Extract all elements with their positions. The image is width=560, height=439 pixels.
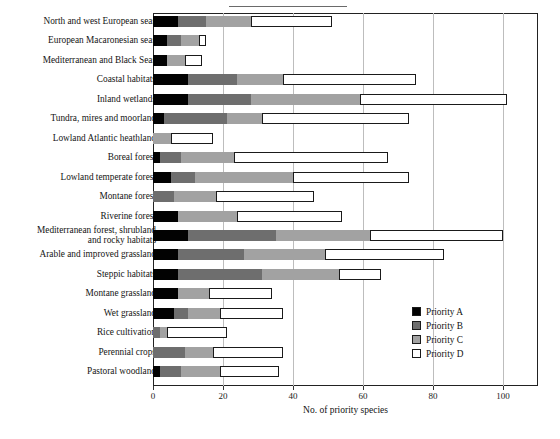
- bar-segment-priority-a: [153, 308, 174, 319]
- stacked-bar[interactable]: [153, 191, 314, 202]
- bar-segment-priority-c: [237, 74, 283, 85]
- bar-segment-priority-b: [167, 35, 181, 46]
- category-label: Mediterranean forest, shrublandand rocky…: [0, 225, 156, 246]
- legend-item-priority-b[interactable]: Priority B: [412, 319, 522, 332]
- stacked-bar[interactable]: [153, 211, 342, 222]
- bar-segment-priority-b: [153, 347, 185, 358]
- stacked-bar[interactable]: [153, 366, 279, 377]
- stacked-bar[interactable]: [153, 288, 272, 299]
- category-label: Steppic habitats: [0, 269, 156, 280]
- bar-segment-priority-c: [153, 133, 171, 144]
- stacked-bar[interactable]: [153, 347, 283, 358]
- stacked-bar[interactable]: [153, 35, 206, 46]
- x-axis-tick-label: 100: [483, 391, 523, 401]
- bar-segment-priority-a: [153, 152, 160, 163]
- bar-segment-priority-d: [234, 152, 388, 163]
- stacked-bar[interactable]: [153, 94, 507, 105]
- legend-swatch-icon: [412, 349, 421, 358]
- legend-swatch-icon: [412, 321, 421, 330]
- bar-segment-priority-d: [339, 269, 381, 280]
- bar-segment-priority-b: [188, 94, 251, 105]
- bar-segment-priority-b: [153, 191, 174, 202]
- bar-segment-priority-a: [153, 366, 160, 377]
- category-label: Lowland Atlantic heathland: [0, 133, 156, 144]
- bar-segment-priority-b: [178, 16, 206, 27]
- bar-segment-priority-b: [153, 327, 160, 338]
- bar-segment-priority-a: [153, 249, 178, 260]
- bar-segment-priority-b: [178, 249, 245, 260]
- bar-segment-priority-c: [262, 269, 339, 280]
- category-label: Pastoral woodland: [0, 366, 156, 377]
- bar-segment-priority-c: [160, 327, 167, 338]
- x-axis-tick: [223, 386, 224, 390]
- category-label: Montane grassland: [0, 288, 156, 299]
- legend-swatch-icon: [412, 335, 421, 344]
- bar-segment-priority-c: [185, 347, 213, 358]
- scan-artifact-line: [229, 6, 347, 7]
- category-label: North and west European seas: [0, 16, 156, 27]
- bar-segment-priority-c: [251, 94, 360, 105]
- bar-segment-priority-d: [185, 55, 203, 66]
- bar-segment-priority-d: [360, 94, 507, 105]
- bar-segment-priority-d: [213, 347, 283, 358]
- stacked-bar[interactable]: [153, 269, 381, 280]
- bar-segment-priority-c: [167, 55, 185, 66]
- stacked-bar[interactable]: [153, 16, 332, 27]
- stacked-bar[interactable]: [153, 113, 409, 124]
- bar-segment-priority-d: [370, 230, 503, 241]
- bar-segment-priority-c: [178, 211, 238, 222]
- bar-segment-priority-d: [262, 113, 409, 124]
- stacked-bar[interactable]: [153, 55, 202, 66]
- legend-item-priority-d[interactable]: Priority D: [412, 347, 522, 360]
- legend-label: Priority D: [426, 349, 463, 359]
- bar-segment-priority-c: [181, 366, 220, 377]
- legend-swatch-icon: [412, 307, 421, 316]
- bar-segment-priority-a: [153, 172, 171, 183]
- bar-segment-priority-a: [153, 230, 188, 241]
- x-axis-tick-label: 0: [133, 391, 173, 401]
- bar-segment-priority-d: [216, 191, 314, 202]
- chart-legend: Priority A Priority B Priority C Priorit…: [412, 305, 522, 361]
- x-axis-tick: [503, 386, 504, 390]
- x-axis-title: No. of priority species: [153, 405, 538, 415]
- category-label: Wet grassland: [0, 308, 156, 319]
- stacked-bar[interactable]: [153, 133, 213, 144]
- bar-segment-priority-d: [283, 74, 416, 85]
- category-label: Coastal habitats: [0, 74, 156, 85]
- x-axis-tick-label: 80: [413, 391, 453, 401]
- bar-segment-priority-d: [171, 133, 213, 144]
- bar-segment-priority-a: [153, 288, 178, 299]
- category-label: Inland wetlands: [0, 94, 156, 105]
- stacked-bar[interactable]: [153, 74, 416, 85]
- bar-segment-priority-b: [178, 269, 262, 280]
- bar-segment-priority-b: [188, 230, 276, 241]
- bar-segment-priority-d: [209, 288, 272, 299]
- legend-item-priority-a[interactable]: Priority A: [412, 305, 522, 318]
- bar-segment-priority-b: [174, 308, 188, 319]
- bar-segment-priority-d: [220, 366, 280, 377]
- gridline: [363, 13, 364, 386]
- stacked-bar[interactable]: [153, 249, 444, 260]
- x-axis-tick: [293, 386, 294, 390]
- legend-label: Priority A: [426, 307, 463, 317]
- category-label: Arable and improved grassland: [0, 249, 156, 260]
- category-label: Montane forest: [0, 191, 156, 202]
- bar-segment-priority-b: [188, 74, 237, 85]
- bar-segment-priority-b: [160, 152, 181, 163]
- stacked-bar[interactable]: [153, 327, 227, 338]
- stacked-bar[interactable]: [153, 152, 388, 163]
- bar-segment-priority-a: [153, 16, 178, 27]
- bar-segment-priority-c: [206, 16, 252, 27]
- x-axis-tick-label: 60: [343, 391, 383, 401]
- bar-segment-priority-c: [174, 191, 216, 202]
- stacked-bar[interactable]: [153, 230, 503, 241]
- legend-item-priority-c[interactable]: Priority C: [412, 333, 522, 346]
- bar-segment-priority-c: [244, 249, 325, 260]
- stacked-bar[interactable]: [153, 308, 283, 319]
- bar-segment-priority-d: [293, 172, 409, 183]
- x-axis-tick: [153, 386, 154, 390]
- stacked-bar[interactable]: [153, 172, 409, 183]
- legend-label: Priority C: [426, 335, 463, 345]
- category-label: Mediterranean and Black Seas: [0, 55, 156, 66]
- legend-label: Priority B: [426, 321, 463, 331]
